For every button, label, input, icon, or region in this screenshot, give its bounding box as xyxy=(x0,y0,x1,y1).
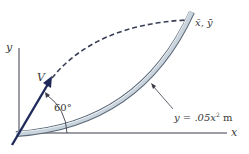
projectile-trajectory xyxy=(52,20,186,78)
equation-leader-line xyxy=(153,86,173,109)
equation-unit: m xyxy=(220,112,233,123)
angle-label: 60° xyxy=(54,102,72,113)
velocity-label: V xyxy=(37,71,46,84)
y-axis-label: y xyxy=(5,41,13,54)
equation-text: y = .05x xyxy=(173,112,216,123)
projectile-diagram: y x 60° V x̄, ȳ y = .05x2 m xyxy=(0,0,249,154)
coordinates-label: x̄, ȳ xyxy=(195,17,213,28)
x-axis-label: x xyxy=(231,126,238,139)
curve-equation-label: y = .05x2 m xyxy=(173,111,233,123)
